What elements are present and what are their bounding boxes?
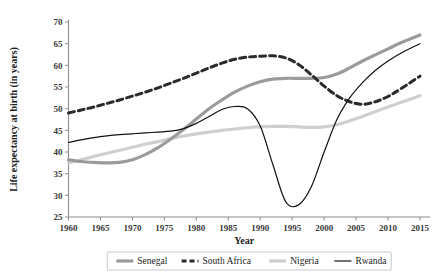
legend-label-south-africa: South Africa bbox=[203, 256, 252, 266]
x-tick-label: 1970 bbox=[123, 223, 142, 233]
legend-label-nigeria: Nigeria bbox=[290, 256, 319, 266]
series-line-south-africa bbox=[69, 56, 421, 113]
y-axis-title: Life expectancy at birth (in years) bbox=[8, 47, 20, 192]
x-axis-ticks: 1960196519701975198019851990199520002005… bbox=[60, 217, 430, 233]
x-tick-label: 2015 bbox=[411, 223, 430, 233]
y-tick-label: 35 bbox=[54, 169, 64, 179]
x-tick-label: 1965 bbox=[91, 223, 110, 233]
x-tick-label: 2005 bbox=[347, 223, 366, 233]
series-line-rwanda bbox=[69, 44, 421, 207]
series-group bbox=[69, 35, 421, 207]
y-tick-label: 50 bbox=[54, 104, 64, 114]
y-tick-label: 30 bbox=[54, 191, 64, 201]
y-axis-ticks: 25303540455055606570 bbox=[54, 17, 69, 222]
chart-legend: SenegalSouth AfricaNigeriaRwanda bbox=[107, 252, 391, 270]
legend-label-senegal: Senegal bbox=[137, 256, 167, 266]
line-chart: 25303540455055606570 1960196519701975198… bbox=[0, 0, 436, 280]
legend-label-rwanda: Rwanda bbox=[355, 256, 387, 266]
x-tick-label: 1960 bbox=[60, 223, 79, 233]
y-tick-label: 60 bbox=[54, 61, 64, 71]
chart-canvas: 25303540455055606570 1960196519701975198… bbox=[0, 0, 436, 280]
y-tick-label: 70 bbox=[54, 17, 64, 27]
y-tick-label: 55 bbox=[54, 82, 64, 92]
y-tick-label: 40 bbox=[54, 147, 64, 157]
x-tick-label: 2000 bbox=[315, 223, 334, 233]
x-axis-title: Year bbox=[234, 235, 255, 246]
x-tick-label: 1975 bbox=[155, 223, 174, 233]
y-tick-label: 25 bbox=[54, 212, 64, 222]
x-tick-label: 2010 bbox=[379, 223, 398, 233]
x-tick-label: 1990 bbox=[251, 223, 270, 233]
y-tick-label: 45 bbox=[54, 126, 64, 136]
x-tick-label: 1995 bbox=[283, 223, 302, 233]
y-tick-label: 65 bbox=[54, 39, 64, 49]
x-tick-label: 1985 bbox=[219, 223, 238, 233]
x-tick-label: 1980 bbox=[187, 223, 206, 233]
series-line-nigeria bbox=[69, 96, 421, 163]
